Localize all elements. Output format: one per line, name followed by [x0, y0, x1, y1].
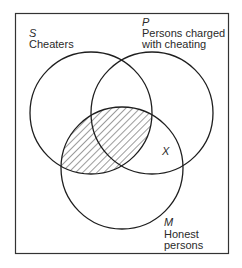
p-label-line2: with cheating — [141, 38, 206, 50]
s-label: Cheaters — [29, 38, 74, 50]
m-letter: M — [164, 216, 174, 228]
x-marker: X — [161, 145, 170, 157]
m-label-line2: persons — [164, 239, 204, 251]
venn-diagram: S Cheaters P Persons charged with cheati… — [0, 0, 242, 268]
